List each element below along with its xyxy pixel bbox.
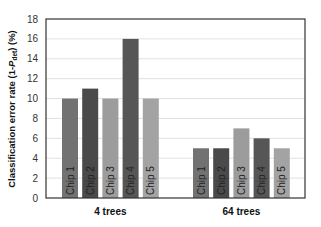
y-tick-label: 10	[27, 93, 39, 104]
bar-label: Chip 1	[196, 166, 207, 195]
bar-label: Chip 5	[276, 166, 287, 195]
bar-label: Chip 4	[256, 166, 267, 195]
category-label: 4 trees	[94, 206, 127, 217]
y-tick-label: 0	[32, 193, 38, 204]
category-label: 64 trees	[222, 206, 260, 217]
bar-label: Chip 4	[125, 166, 136, 195]
y-tick-label: 2	[32, 173, 38, 184]
bar-label: Chip 2	[85, 166, 96, 195]
bar-label: Chip 5	[145, 166, 156, 195]
y-axis-ticks: 024681012141618	[27, 14, 39, 204]
y-tick-label: 16	[27, 33, 39, 44]
x-axis-categories: 4 trees64 trees	[94, 206, 260, 217]
bar-chart: Chip 1Chip 2Chip 3Chip 4Chip 5Chip 1Chip…	[0, 0, 321, 227]
bar-label: Chip 2	[216, 166, 227, 195]
y-tick-label: 18	[27, 14, 39, 25]
y-tick-label: 4	[32, 153, 38, 164]
y-tick-label: 8	[32, 113, 38, 124]
bar-label: Chip 3	[105, 166, 116, 195]
bar-label: Chip 3	[236, 166, 247, 195]
y-tick-label: 6	[32, 133, 38, 144]
bar-label: Chip 1	[65, 166, 76, 195]
y-tick-label: 12	[27, 73, 39, 84]
y-tick-label: 14	[27, 53, 39, 64]
y-axis-label: Classification error rate (1-Pdet) (%)	[6, 30, 18, 188]
